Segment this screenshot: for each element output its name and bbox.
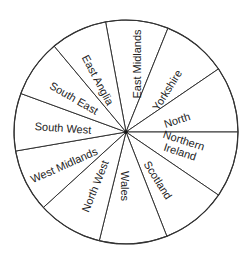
pie-chart: East MidlandsYorkshireNorthNorthernIrela… bbox=[0, 0, 251, 257]
slice-label-wales: Wales bbox=[119, 171, 131, 202]
pie-center-dot bbox=[124, 130, 128, 134]
slice-label-east-midlands: East Midlands bbox=[131, 29, 143, 99]
